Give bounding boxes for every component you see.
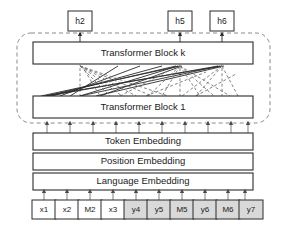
token-embedding-layer: Token Embedding [33,133,253,150]
position-embedding-label: Position Embedding [101,155,186,166]
transformer-block-k: Transformer Block k [33,42,253,64]
input-token-label: x2 [63,205,72,214]
input-token-label: x3 [109,205,118,214]
input-token-y7: y7 [239,200,263,219]
output-head-label: h5 [175,16,185,26]
input-token-label: y4 [132,205,141,214]
token-to-embedding-arrows [44,190,245,200]
attention-connections [41,64,238,97]
input-token-x1: x1 [32,200,56,219]
transformer-block-k-label: Transformer Block k [101,47,186,58]
input-token-x3: x3 [101,200,125,219]
output-head-h6: h6 [210,11,234,31]
transformer-block-1: Transformer Block 1 [33,96,253,118]
figure-canvas: h2 h5 h6 Transformer Block k [0,0,287,234]
input-token-label: M2 [84,205,96,214]
transformer-block-1-label: Transformer Block 1 [100,101,185,112]
input-token-y6: y6 [193,200,217,219]
input-token-label: y7 [247,205,256,214]
architecture-diagram: h2 h5 h6 Transformer Block k [0,0,287,234]
input-token-x2: x2 [55,200,79,219]
language-embedding-layer: Language Embedding [33,173,253,190]
input-token-m6: M6 [216,200,240,219]
input-token-label: x1 [40,205,49,214]
output-head-h2: h2 [68,11,92,31]
input-token-y5: y5 [147,200,171,219]
input-token-m2: M2 [78,200,102,219]
embedding-to-block1-arrows [47,122,248,133]
input-token-m5: M5 [170,200,194,219]
position-embedding-layer: Position Embedding [33,153,253,170]
output-head-label: h2 [75,16,85,26]
input-token-label: y5 [155,205,164,214]
output-head-h5: h5 [168,11,192,31]
input-token-label: M6 [222,205,234,214]
language-embedding-label: Language Embedding [97,175,190,186]
token-embedding-label: Token Embedding [105,135,181,146]
output-head-label: h6 [217,16,227,26]
input-token-y4: y4 [124,200,148,219]
input-token-label: M5 [176,205,188,214]
input-token-label: y6 [201,205,210,214]
